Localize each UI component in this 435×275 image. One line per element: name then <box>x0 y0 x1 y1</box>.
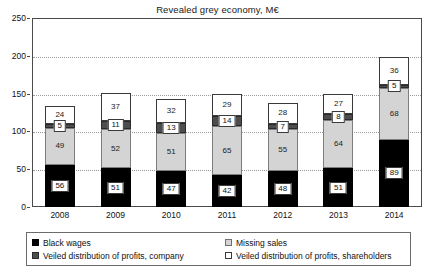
bar-segment[interactable]: 56 <box>45 165 75 207</box>
bar-value-label: 27 <box>331 99 346 109</box>
bar-value-label: 13 <box>163 122 180 134</box>
bar-value-label: 47 <box>163 183 180 195</box>
bar-segment[interactable]: 51 <box>101 168 131 207</box>
y-tick-label: 50 <box>17 164 26 174</box>
bar-value-label: 5 <box>388 80 400 92</box>
y-tick-label: 0 <box>21 202 26 212</box>
x-tick-label: 2008 <box>50 210 69 220</box>
legend-label: Black wages <box>43 238 91 248</box>
bar-segment[interactable]: 65 <box>212 126 242 175</box>
bar-stack: 2454956 <box>45 106 75 207</box>
bar-segment[interactable]: 64 <box>323 120 353 168</box>
bar-value-label: 51 <box>107 182 124 194</box>
bar-segment[interactable]: 68 <box>379 88 409 139</box>
bar-group[interactable]: 2875548 <box>268 103 298 207</box>
bar-segment[interactable]: 52 <box>101 129 131 168</box>
bar-stack: 29146542 <box>212 94 242 207</box>
bar-segment[interactable]: 47 <box>156 171 186 207</box>
bar-value-label: 55 <box>275 145 290 155</box>
y-tick-mark <box>27 18 30 19</box>
bar-value-label: 48 <box>274 183 291 195</box>
bar-segment[interactable]: 51 <box>156 133 186 172</box>
bar-value-label: 49 <box>52 141 67 151</box>
bar-segment[interactable]: 55 <box>268 129 298 171</box>
bar-stack: 37115251 <box>101 93 131 207</box>
bar-segment[interactable]: 14 <box>212 116 242 127</box>
bar-value-label: 64 <box>331 139 346 149</box>
legend-label: Veiled distribution of profits, company <box>43 251 184 261</box>
bar-stack: 2875548 <box>268 103 298 207</box>
bar-value-label: 68 <box>387 109 402 119</box>
bar-segment[interactable]: 89 <box>379 140 409 207</box>
bars-layer: 2454956371152513213514729146542287554827… <box>32 18 422 207</box>
bar-group[interactable]: 3656889 <box>379 57 409 207</box>
bar-value-label: 36 <box>387 66 402 76</box>
y-tick-label: 250 <box>12 13 26 23</box>
y-tick-mark <box>27 94 30 95</box>
legend-item[interactable]: Black wages <box>32 236 225 249</box>
legend-item[interactable]: Veiled distribution of profits, sharehol… <box>225 249 405 262</box>
chart-title: Revealed grey economy, M€ <box>0 4 435 15</box>
bar-segment[interactable]: 42 <box>212 175 242 207</box>
legend-item[interactable]: Missing sales <box>225 236 405 249</box>
bar-stack: 32135147 <box>156 99 186 207</box>
bar-value-label: 42 <box>219 185 236 197</box>
bar-segment[interactable]: 13 <box>156 123 186 133</box>
legend-item[interactable]: Veiled distribution of profits, company <box>32 249 225 262</box>
y-tick-mark <box>27 56 30 57</box>
y-tick-mark <box>27 169 30 170</box>
x-tick-label: 2012 <box>273 210 292 220</box>
x-axis: 2008200920102011201220132014 <box>32 208 422 224</box>
bar-value-label: 28 <box>275 108 290 118</box>
bar-stack: 2786451 <box>323 94 353 207</box>
bar-value-label: 5 <box>54 120 66 132</box>
bar-segment[interactable]: 37 <box>101 93 131 121</box>
legend-swatch-icon <box>32 239 39 246</box>
bar-value-label: 52 <box>108 144 123 154</box>
chart-legend: Black wagesMissing salesVeiled distribut… <box>26 232 411 266</box>
bar-segment[interactable]: 49 <box>45 128 75 165</box>
bar-segment[interactable]: 48 <box>268 171 298 207</box>
legend-label: Veiled distribution of profits, sharehol… <box>236 251 391 261</box>
bar-value-label: 24 <box>52 110 67 120</box>
legend-swatch-icon <box>225 252 232 259</box>
bar-segment[interactable]: 51 <box>323 168 353 207</box>
legend-swatch-icon <box>32 252 39 259</box>
bar-value-label: 29 <box>220 100 235 110</box>
legend-label: Missing sales <box>236 238 287 248</box>
bar-group[interactable]: 37115251 <box>101 93 131 207</box>
y-tick-label: 100 <box>12 126 26 136</box>
x-tick-label: 2011 <box>218 210 236 220</box>
bar-value-label: 65 <box>220 146 235 156</box>
x-tick-label: 2013 <box>329 210 348 220</box>
chart-page: Revealed grey economy, M€ 05010015020025… <box>0 0 435 275</box>
bar-stack: 3656889 <box>379 57 409 207</box>
bar-group[interactable]: 29146542 <box>212 94 242 207</box>
bar-segment[interactable]: 11 <box>101 121 131 129</box>
bar-group[interactable]: 32135147 <box>156 99 186 207</box>
x-tick-label: 2010 <box>162 210 181 220</box>
bar-value-label: 11 <box>107 119 123 131</box>
bar-value-label: 51 <box>164 147 179 157</box>
y-axis: 050100150200250 <box>0 18 30 207</box>
bar-value-label: 32 <box>164 106 179 116</box>
bar-segment[interactable]: 29 <box>212 94 242 116</box>
bar-value-label: 8 <box>332 111 344 123</box>
y-tick-mark <box>27 207 30 208</box>
legend-swatch-icon <box>225 239 232 246</box>
bar-value-label: 7 <box>276 121 288 133</box>
x-tick-label: 2014 <box>385 210 404 220</box>
bar-segment[interactable]: 32 <box>156 99 186 123</box>
bar-group[interactable]: 2786451 <box>323 94 353 207</box>
bar-value-label: 14 <box>219 115 236 127</box>
bar-value-label: 37 <box>108 102 123 112</box>
bar-group[interactable]: 2454956 <box>45 106 75 207</box>
bar-value-label: 51 <box>330 182 347 194</box>
x-tick-label: 2009 <box>106 210 125 220</box>
bar-value-label: 89 <box>386 167 403 179</box>
y-tick-label: 200 <box>12 51 26 61</box>
bar-value-label: 56 <box>51 180 68 192</box>
y-tick-mark <box>27 131 30 132</box>
y-tick-label: 150 <box>12 89 26 99</box>
